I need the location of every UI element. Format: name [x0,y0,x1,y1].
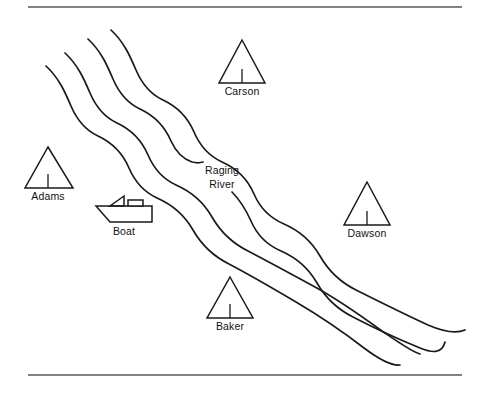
boat-icon[interactable] [96,196,152,222]
boat-label: Boat [113,225,135,238]
marker-dawson-label: Dawson [348,227,387,240]
river-bank-2-continued [232,192,445,352]
marker-adams[interactable] [25,147,73,188]
marker-baker[interactable] [207,277,253,318]
marker-adams-triangle [25,147,73,188]
river-banks [46,30,465,365]
marker-carson[interactable] [219,40,265,83]
marker-carson-label: Carson [225,85,260,98]
map-canvas [0,0,483,397]
river-bank-3 [65,53,420,354]
river-bank-1 [111,30,465,332]
marker-dawson[interactable] [344,182,390,225]
river-label-line-1: Raging [205,163,239,177]
marker-adams-label: Adams [31,190,64,203]
boat-hull [96,206,152,222]
marker-baker-label: Baker [216,320,244,333]
boat-mast [110,196,124,206]
river-label-line-2: River [209,177,234,191]
boat-cabin [128,200,143,206]
river-bank-2 [88,39,203,163]
river-map-figure: Adams Carson Dawson Baker Boat Raging Ri… [0,0,483,397]
